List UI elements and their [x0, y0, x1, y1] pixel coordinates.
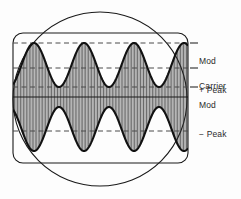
crt-bezel-circle	[13, 12, 187, 186]
oscilloscope-figure: Mod + Peak Carrier Mod − Peak	[0, 0, 241, 199]
label-mod-minus-peak: Mod − Peak	[199, 82, 227, 158]
label-mod-minus-peak-line2: − Peak	[199, 130, 227, 140]
label-mod-minus-peak-line1: Mod	[199, 101, 227, 111]
graticule-contents	[13, 43, 188, 151]
label-tick-group	[190, 43, 198, 87]
